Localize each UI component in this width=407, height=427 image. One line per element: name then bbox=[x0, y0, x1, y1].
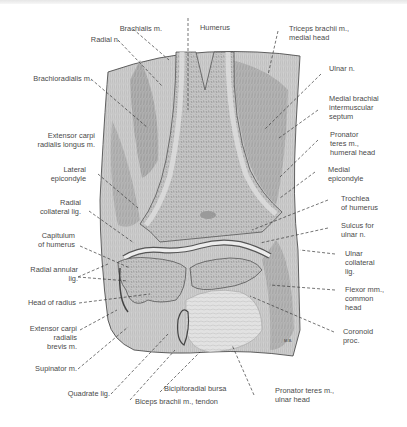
label-brachialis: Brachialis m. bbox=[78, 25, 162, 34]
label-triceps-line2: medial head bbox=[289, 34, 329, 43]
label-quadrate-lig: Quadrate lig. bbox=[0, 390, 110, 399]
label-ecrl-line2: radialis longus m. bbox=[0, 141, 95, 150]
label-radial-collateral-line2: collateral lig. bbox=[0, 208, 81, 217]
label-coronoid-line2: proc. bbox=[343, 337, 359, 346]
svg-text:M.B.: M.B. bbox=[284, 338, 292, 343]
label-mbis-line3: septum bbox=[329, 113, 353, 122]
label-radial-annular-line1: Radial annular bbox=[0, 266, 78, 275]
label-radial-nerve: Radial n. bbox=[58, 36, 120, 45]
label-capitulum-line2: of humerus bbox=[0, 241, 75, 250]
label-head-of-radius: Head of radius bbox=[0, 299, 76, 308]
label-brachioradialis: Brachioradialis m. bbox=[0, 75, 92, 84]
label-sulcus-line2: ulnar n. bbox=[341, 231, 366, 240]
label-medial-epicondyle-line2: epicondyle bbox=[328, 175, 363, 184]
label-pronator-humeral-line3: humeral head bbox=[330, 149, 375, 158]
label-ulnar-collateral-line3: lig. bbox=[345, 268, 354, 277]
label-radial-annular-line2: lig. bbox=[0, 275, 78, 284]
label-bicipitoradial-bursa: Bicipitoradial bursa bbox=[164, 385, 226, 394]
label-trochlea-line2: of humerus bbox=[341, 204, 378, 213]
label-flexor-line3: head bbox=[345, 304, 361, 313]
radius-head bbox=[118, 258, 186, 304]
label-pronator-ulnar-line2: ulnar head bbox=[275, 396, 310, 405]
label-ecrb-line3: brevis m. bbox=[0, 343, 77, 352]
label-lateral-epicondyle-line2: epicondyle bbox=[0, 175, 86, 184]
label-biceps-tendon: Biceps brachii m., tendon bbox=[135, 398, 218, 407]
label-ulnar-nerve: Ulnar n. bbox=[329, 65, 355, 74]
label-humerus: Humerus bbox=[200, 24, 230, 33]
label-supinator: Supinator m. bbox=[0, 365, 77, 374]
